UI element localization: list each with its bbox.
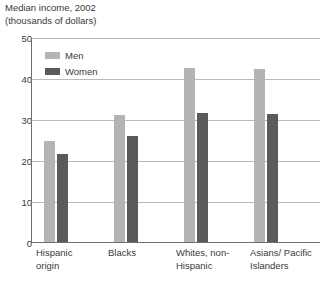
bar-men-whites-non-hispanic — [184, 68, 195, 242]
chart-title: Median income, 2002 (thousands of dollar… — [5, 2, 96, 27]
x-category-label-whites-non-hispanic-line1: Whites, non- — [176, 247, 229, 258]
x-category-label-asians-pacific-islanders-line2: Islanders — [250, 260, 312, 273]
bar-women-asians-pacific-islanders — [267, 114, 278, 242]
chart-legend: Men Women — [45, 48, 98, 80]
x-category-label-hispanic-origin-line2: origin — [36, 260, 72, 273]
bar-women-blacks — [127, 136, 138, 242]
bar-women-whites-non-hispanic — [197, 113, 208, 242]
legend-label-women: Women — [65, 66, 98, 77]
x-category-label-blacks-line1: Blacks — [108, 247, 136, 258]
y-tick-label-0: 0 — [6, 238, 32, 249]
x-category-label-asians-pacific-islanders-line1: Asians/ Pacific — [250, 247, 312, 258]
x-category-label-whites-non-hispanic-line2: Hispanic — [176, 260, 229, 273]
x-axis-line — [31, 242, 320, 243]
y-axis-line — [31, 38, 32, 243]
gridline-50 — [31, 38, 320, 39]
x-category-label-blacks: Blacks — [108, 247, 136, 260]
y-tick-label-40: 40 — [6, 74, 32, 85]
bar-men-asians-pacific-islanders — [254, 69, 265, 242]
y-tick-label-20: 20 — [6, 156, 32, 167]
legend-swatch-women — [45, 68, 60, 75]
bar-men-blacks — [114, 115, 125, 242]
legend-swatch-men — [45, 52, 60, 59]
legend-item-men: Men — [45, 48, 98, 62]
bar-men-hispanic-origin — [44, 141, 55, 242]
y-tick-label-50: 50 — [6, 33, 32, 44]
y-tick-label-10: 10 — [6, 197, 32, 208]
legend-item-women: Women — [45, 64, 98, 78]
bar-women-hispanic-origin — [57, 154, 68, 242]
x-category-label-hispanic-origin: Hispanic origin — [36, 247, 72, 272]
median-income-bar-chart: Median income, 2002 (thousands of dollar… — [0, 0, 327, 283]
x-category-label-whites-non-hispanic: Whites, non- Hispanic — [176, 247, 229, 272]
x-category-label-hispanic-origin-line1: Hispanic — [36, 247, 72, 258]
chart-title-line2: (thousands of dollars) — [5, 15, 96, 28]
y-tick-label-30: 30 — [6, 115, 32, 126]
legend-label-men: Men — [65, 50, 83, 61]
x-category-label-asians-pacific-islanders: Asians/ Pacific Islanders — [250, 247, 312, 272]
chart-title-line1: Median income, 2002 — [5, 2, 96, 13]
